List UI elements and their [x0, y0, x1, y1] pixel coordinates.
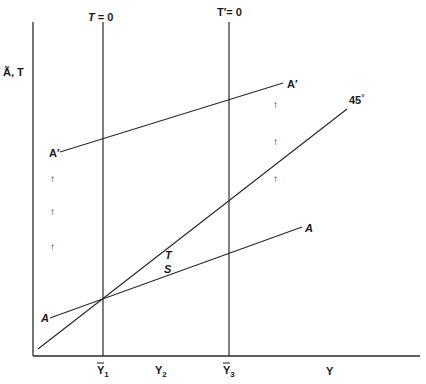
s-label: S — [164, 263, 172, 275]
up-arrow-icon: ↑ — [50, 206, 55, 217]
y-axis-label: Ã, T — [3, 66, 24, 78]
a-line — [50, 227, 302, 318]
t-zero-label: T = 0 — [88, 11, 113, 23]
svg-text:Y2: Y2 — [155, 364, 167, 379]
a-left-label: A — [40, 312, 49, 324]
svg-text:Y1: Y1 — [97, 364, 109, 379]
up-arrow-icon: ↑ — [273, 136, 278, 147]
svg-text:Y3: Y3 — [223, 364, 235, 379]
t-label: T — [165, 249, 173, 261]
x-tick-y2: Y2 — [155, 364, 167, 379]
up-arrow-icon: ↑ — [50, 173, 55, 184]
a-right-label: A — [304, 222, 313, 234]
a-prime-line — [60, 83, 283, 152]
x-axis-label: Y — [326, 365, 334, 377]
t-prime-zero-label: T′= 0 — [217, 6, 242, 18]
up-arrow-icon: ↑ — [273, 173, 278, 184]
up-arrow-icon: ↑ — [273, 99, 278, 110]
x-tick-y3: Y3 — [223, 363, 235, 379]
a-prime-left-label: A′ — [49, 147, 60, 159]
forty-five-label: 45° — [349, 93, 364, 106]
up-arrow-icon: ↑ — [50, 241, 55, 252]
a-prime-right-label: A′ — [287, 78, 298, 90]
economics-diagram: T = 0 T′= 0 Ã, T A′ A′ A A 45° T S ↑ ↑ ↑… — [0, 0, 426, 384]
x-tick-y1: Y1 — [97, 363, 109, 379]
